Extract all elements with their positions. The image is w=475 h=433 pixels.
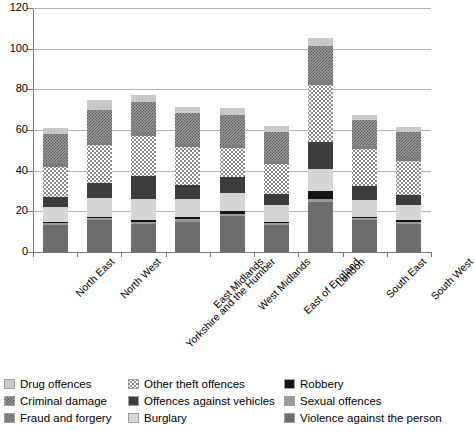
x-axis-label-london: London bbox=[335, 256, 368, 289]
legend-label: Drug offences bbox=[20, 378, 91, 390]
segment-robbery bbox=[308, 191, 333, 199]
legend-label: Criminal damage bbox=[20, 395, 107, 407]
y-axis-tick-label: 120 bbox=[1, 2, 28, 13]
legend-item-offences-against-vehicles[interactable]: Offences against vehicles bbox=[128, 393, 275, 409]
legend-label: Violence against the person bbox=[300, 412, 442, 424]
segment-criminal-damage bbox=[308, 46, 333, 81]
segment-offences-against-vehicles bbox=[131, 176, 156, 199]
segment-offences-against-vehicles bbox=[175, 185, 200, 199]
segment-robbery bbox=[352, 217, 377, 218]
segment-criminal-damage bbox=[396, 132, 421, 157]
legend-label: Robbery bbox=[300, 378, 343, 390]
segment-violence-against-the-person bbox=[396, 224, 421, 252]
legend-label: Burglary bbox=[144, 412, 187, 424]
segment-sexual-offences bbox=[43, 223, 68, 225]
segment-burglary bbox=[352, 200, 377, 217]
segment-fraud-and-forgery bbox=[396, 157, 421, 160]
segment-other-theft-offences bbox=[43, 167, 68, 198]
legend-item-drug-offences[interactable]: Drug offences bbox=[4, 376, 111, 392]
bar-east-of-england[interactable] bbox=[264, 126, 289, 252]
segment-fraud-and-forgery bbox=[43, 164, 68, 167]
segment-other-theft-offences bbox=[87, 145, 112, 183]
segment-offences-against-vehicles bbox=[396, 195, 421, 205]
offences-against-vehicles-swatch bbox=[128, 396, 139, 406]
segment-violence-against-the-person bbox=[308, 202, 333, 252]
segment-sexual-offences bbox=[396, 222, 421, 224]
segment-violence-against-the-person bbox=[264, 225, 289, 252]
segment-burglary bbox=[175, 199, 200, 217]
segment-fraud-and-forgery bbox=[87, 142, 112, 145]
chart-legend: Drug offencesCriminal damageFraud and fo… bbox=[4, 376, 434, 428]
segment-burglary bbox=[131, 199, 156, 220]
segment-other-theft-offences bbox=[131, 136, 156, 176]
x-axis-label-south-west: South West bbox=[429, 256, 475, 302]
bar-north-west[interactable] bbox=[87, 100, 112, 253]
legend-column-3: RobberySexual offencesViolence against t… bbox=[284, 376, 442, 427]
legend-item-burglary[interactable]: Burglary bbox=[128, 410, 275, 426]
legend-item-fraud-and-forgery[interactable]: Fraud and forgery bbox=[4, 410, 111, 426]
segment-drug-offences bbox=[131, 95, 156, 101]
violence-against-the-person-swatch bbox=[284, 413, 295, 423]
legend-item-other-theft-offences[interactable]: Other theft offences bbox=[128, 376, 275, 392]
legend-item-sexual-offences[interactable]: Sexual offences bbox=[284, 393, 442, 409]
burglary-swatch bbox=[128, 413, 139, 423]
gridline bbox=[33, 89, 431, 90]
segment-drug-offences bbox=[87, 100, 112, 110]
segment-offences-against-vehicles bbox=[308, 142, 333, 168]
legend-label: Offences against vehicles bbox=[144, 395, 275, 407]
bar-north-east[interactable] bbox=[43, 128, 68, 252]
x-axis-tick bbox=[298, 252, 299, 257]
drug-offences-swatch bbox=[4, 379, 15, 389]
legend-item-robbery[interactable]: Robbery bbox=[284, 376, 442, 392]
segment-robbery bbox=[87, 217, 112, 218]
segment-violence-against-the-person bbox=[131, 224, 156, 252]
segment-burglary bbox=[396, 205, 421, 220]
legend-label: Fraud and forgery bbox=[20, 412, 111, 424]
legend-item-criminal-damage[interactable]: Criminal damage bbox=[4, 393, 111, 409]
x-axis-tick bbox=[166, 252, 167, 257]
segment-burglary bbox=[87, 198, 112, 217]
segment-fraud-and-forgery bbox=[220, 145, 245, 148]
segment-burglary bbox=[308, 169, 333, 191]
segment-robbery bbox=[43, 222, 68, 223]
y-axis-tick-label: 100 bbox=[1, 43, 28, 54]
x-axis-tick bbox=[121, 252, 122, 257]
plot-area: 020406080100120 bbox=[33, 8, 431, 252]
bar-east-midlands[interactable] bbox=[175, 107, 200, 252]
segment-violence-against-the-person bbox=[87, 220, 112, 252]
bar-london[interactable] bbox=[308, 37, 333, 252]
x-axis-label-north-east: North East bbox=[74, 256, 117, 299]
y-axis-tick-label: 40 bbox=[1, 165, 28, 176]
segment-robbery bbox=[220, 211, 245, 214]
segment-robbery bbox=[131, 220, 156, 221]
bar-yorkshire-and-the-humber[interactable] bbox=[131, 95, 156, 252]
segment-criminal-damage bbox=[220, 115, 245, 146]
segment-burglary bbox=[264, 205, 289, 221]
segment-criminal-damage bbox=[264, 132, 289, 160]
segment-sexual-offences bbox=[131, 222, 156, 224]
segment-sexual-offences bbox=[87, 218, 112, 220]
segment-other-theft-offences bbox=[220, 148, 245, 176]
bar-south-east[interactable] bbox=[352, 115, 377, 252]
bar-west-midlands[interactable] bbox=[220, 108, 245, 252]
segment-criminal-damage bbox=[131, 102, 156, 134]
y-axis-tick-label: 20 bbox=[1, 205, 28, 216]
segment-fraud-and-forgery bbox=[352, 146, 377, 149]
stacked-bar-chart: 020406080100120 North EastNorth WestYork… bbox=[0, 0, 436, 370]
gridline bbox=[33, 8, 431, 9]
segment-offences-against-vehicles bbox=[87, 183, 112, 198]
segment-offences-against-vehicles bbox=[43, 197, 68, 207]
robbery-swatch bbox=[284, 379, 295, 389]
segment-fraud-and-forgery bbox=[175, 144, 200, 147]
criminal-damage-swatch bbox=[4, 396, 15, 406]
segment-fraud-and-forgery bbox=[131, 133, 156, 136]
fraud-and-forgery-swatch bbox=[4, 413, 15, 423]
segment-offences-against-vehicles bbox=[220, 177, 245, 193]
segment-burglary bbox=[43, 207, 68, 221]
bar-south-west[interactable] bbox=[396, 127, 421, 252]
x-axis-tick bbox=[210, 252, 211, 257]
segment-other-theft-offences bbox=[308, 85, 333, 142]
legend-label: Other theft offences bbox=[144, 378, 245, 390]
x-axis-label-north-west: North West bbox=[119, 256, 164, 301]
legend-item-violence-against-the-person[interactable]: Violence against the person bbox=[284, 410, 442, 426]
